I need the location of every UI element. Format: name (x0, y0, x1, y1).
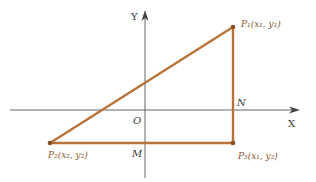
coordinate-diagram: Y X O N M P₁(x₁, y₁) P₂(x₂, y₂) P₃(x₁, y… (0, 0, 316, 182)
point-p1 (231, 25, 236, 30)
point-p2 (48, 141, 53, 146)
point-p3 (231, 141, 236, 146)
marker-m-label: M (131, 148, 143, 159)
y-axis-label: Y (130, 11, 138, 22)
marker-n-label: N (236, 97, 247, 108)
point-p1-label: P₁(x₁, y₁) (240, 19, 281, 29)
point-p2-label: P₂(x₂, y₂) (47, 150, 88, 160)
point-p3-label: P₃(x₁, y₂) (237, 151, 278, 161)
origin-label: O (133, 115, 141, 126)
x-axis-label: X (288, 118, 296, 129)
segment-p2-p1 (50, 27, 233, 143)
